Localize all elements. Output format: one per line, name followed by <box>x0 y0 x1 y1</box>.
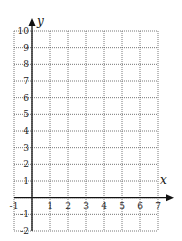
y-tick-label: 4 <box>23 126 29 136</box>
x-tick-label: 2 <box>65 201 71 211</box>
y-tick-label: 8 <box>23 59 29 69</box>
axes <box>14 18 174 231</box>
x-tick-label: 6 <box>137 201 143 211</box>
coordinate-grid: -1123456710987654321-1-2 x y <box>0 0 182 241</box>
y-axis-arrow-icon <box>29 18 36 26</box>
x-tick-label: -1 <box>10 201 19 211</box>
y-tick-label: -2 <box>20 226 29 236</box>
x-axis-arrow-icon <box>166 194 174 201</box>
x-axis-label: x <box>160 173 167 187</box>
x-tick-label: 7 <box>155 201 161 211</box>
x-tick-label: 1 <box>47 201 53 211</box>
y-tick-label: 10 <box>18 26 30 36</box>
x-tick-label: 5 <box>119 201 125 211</box>
x-tick-label: 4 <box>101 201 107 211</box>
y-tick-label: -1 <box>20 209 29 219</box>
y-tick-label: 3 <box>23 143 29 153</box>
x-tick-label: 3 <box>83 201 89 211</box>
y-tick-label: 6 <box>23 93 29 103</box>
y-tick-label: 5 <box>23 109 29 119</box>
y-tick-label: 9 <box>23 43 29 53</box>
y-tick-label: 7 <box>23 76 29 86</box>
y-tick-label: 1 <box>23 176 29 186</box>
y-tick-label: 2 <box>23 159 29 169</box>
y-axis-label: y <box>36 14 44 28</box>
